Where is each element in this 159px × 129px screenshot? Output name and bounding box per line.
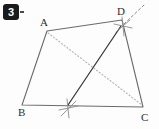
- vertex-label-a: A: [40, 17, 48, 28]
- construction-mark-on-bc: [59, 99, 78, 118]
- quadrilateral-abcd-outline: [22, 20, 143, 107]
- vertex-label-d: D: [117, 6, 125, 17]
- vertex-label-b: B: [18, 107, 25, 118]
- dashed-construction-ray: [124, 5, 144, 24]
- figure-canvas: 3 A B C D: [0, 0, 159, 129]
- solid-segment-d-to-bc: [68, 26, 121, 105]
- vertex-label-c: C: [141, 112, 148, 123]
